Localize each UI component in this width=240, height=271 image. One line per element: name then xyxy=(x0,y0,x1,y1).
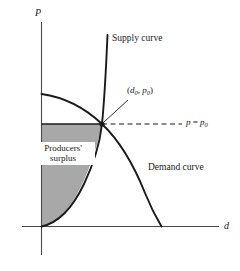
demand-curve-label: Demand curve xyxy=(148,163,204,173)
producers-surplus-region xyxy=(42,124,103,227)
producers-surplus-label: Producers' surplus xyxy=(31,142,95,165)
equilibrium-point-marker xyxy=(99,121,104,126)
equilibrium-point-label: (d0, p0) xyxy=(127,86,153,95)
supply-demand-figure: P d Supply curve Demand curve (d0, p0) p… xyxy=(0,0,240,271)
price-line-label: p = p0 xyxy=(186,118,208,127)
vertical-axis-label: P xyxy=(35,8,41,18)
equilibrium-d-symbol: d xyxy=(130,85,135,95)
equilibrium-close-paren: ) xyxy=(150,85,153,95)
supply-curve-label: Supply curve xyxy=(112,34,162,44)
equilibrium-leader-line xyxy=(104,100,128,122)
producers-surplus-line-1: Producers' xyxy=(33,143,93,153)
price-line-p0-subscript: 0 xyxy=(205,121,208,128)
equilibrium-d-subscript: 0 xyxy=(135,89,138,96)
producers-surplus-line-2: surplus xyxy=(33,153,93,163)
price-line-p0-symbol: p xyxy=(200,117,205,127)
price-line-equals-sign: = xyxy=(191,117,201,127)
equilibrium-p-subscript: 0 xyxy=(147,89,150,96)
horizontal-axis-label: d xyxy=(224,221,229,231)
